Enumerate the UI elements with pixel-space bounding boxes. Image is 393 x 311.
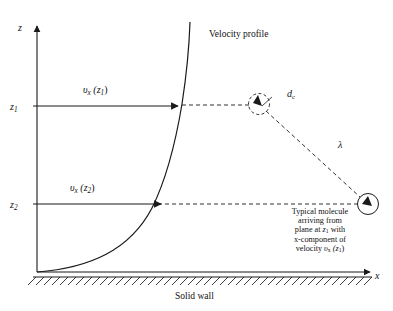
tick-label-z1: z1 (10, 101, 18, 114)
molecule-arrowhead (362, 196, 372, 206)
velocity-profile-label: Velocity profile (209, 29, 268, 40)
molecule-note-line-3-b: with (329, 225, 346, 234)
velocity-label-z2: υx (z2) (70, 182, 94, 195)
velocity-label-z2-arg-close: ) (91, 182, 94, 193)
velocity-profile-curve (37, 22, 190, 272)
velocity-label-z1-arg-open: (z (91, 84, 101, 95)
mean-free-path-line (266, 111, 360, 197)
collision-diameter-label: dc (287, 88, 295, 102)
molecule-note-line-3-a: plane at (295, 225, 323, 234)
molecule-note-line-2: arriving from (279, 216, 361, 225)
velocity-label-z1-arg-close: ) (104, 84, 107, 95)
velocity-label-z1: υx (z1) (83, 84, 107, 97)
x-axis-label: x (375, 270, 379, 281)
molecule-note-line-3: plane at z1 with (279, 225, 361, 235)
collision-diameter-tick (262, 97, 272, 106)
tick-label-z2: z2 (10, 199, 18, 212)
collision-diameter-subscript: c (292, 93, 295, 101)
solid-wall-label: Solid wall (175, 291, 214, 302)
molecule-note-line-4: x-component of (279, 235, 361, 244)
molecule-note-line-5: velocity υx (z1) (279, 244, 361, 254)
molecule-note-line-5-a: velocity (296, 244, 324, 253)
tick-label-z2-subscript: 2 (14, 204, 18, 212)
tick-label-z1-subscript: 1 (14, 106, 18, 114)
molecule-note-line-1: Typical molecule (279, 207, 361, 216)
solid-wall-hatching (28, 277, 372, 285)
molecule-arrowhead-z1 (253, 95, 262, 106)
molecule-note: Typical molecule arriving from plane at … (279, 207, 361, 254)
molecule-note-line-5-c: ) (342, 244, 345, 253)
velocity-label-z2-arg-open: (z (78, 182, 88, 193)
axis-ticks (33, 106, 37, 204)
mean-free-path-label: λ (338, 139, 342, 150)
z-axis-label: z (18, 22, 22, 33)
velocity-profile-diagram (0, 0, 393, 311)
collision-circle-z1 (249, 94, 273, 115)
molecule-note-line-5-b: (z (331, 244, 339, 253)
